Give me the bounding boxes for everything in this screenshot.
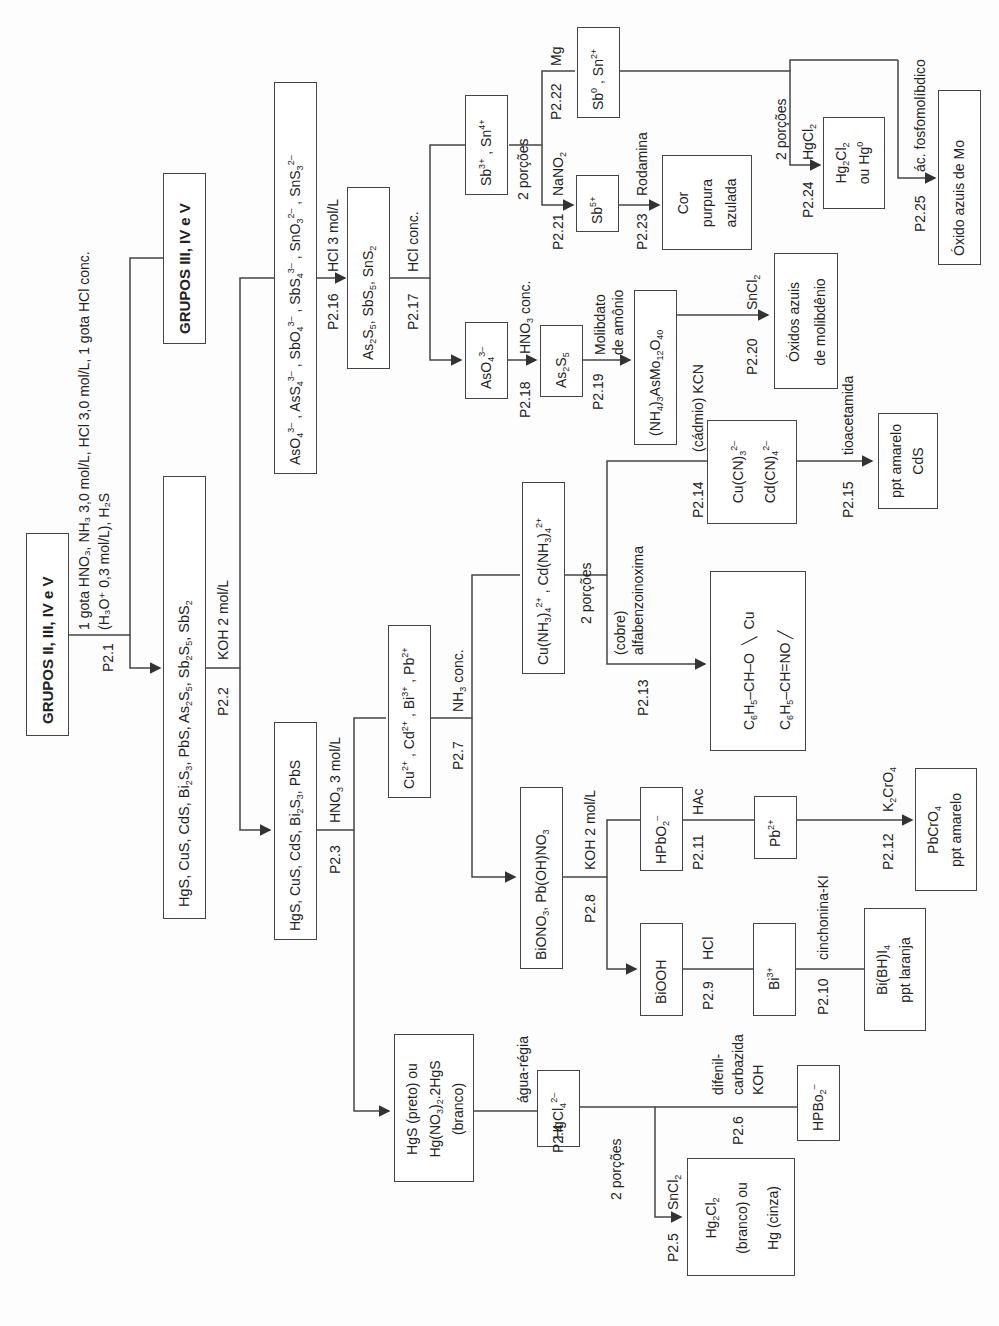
line-p2-8 bbox=[562, 820, 640, 877]
step-p2-4-reagent: água-régia bbox=[515, 1036, 532, 1103]
step-p2-1-reagent-line1: 1 gota HNO₃, NH₃ 3,0 mol/L, HCl 3,0 mol/… bbox=[76, 251, 93, 630]
node-cu-complex-label: C6H5–CH–O ╲ CuC6H5–CH=NO ╱ bbox=[731, 612, 803, 730]
node-as2s5: As2S5 bbox=[540, 325, 583, 397]
node-thioanions: AsO43– , AsS43– , SbO43– , SbS43– , SnO3… bbox=[274, 82, 317, 474]
step-p2-4-id: P2.4 bbox=[550, 1124, 567, 1153]
arrow-p2-8 bbox=[607, 877, 636, 969]
step-p2-22-reagent: Mg bbox=[548, 47, 565, 66]
step-p2-2-id: P2.2 bbox=[215, 687, 232, 716]
node-mo-oxide-label: Óxido azuis de Mo bbox=[951, 140, 968, 256]
node-sb-sn-label: Sb3+ , Sn4+ bbox=[478, 120, 495, 186]
step-p2-13-reagent-line2: alfabenzoinoxima bbox=[630, 546, 647, 655]
node-mo-blue: Óxidos azuisde molibdênio bbox=[774, 253, 838, 389]
step-p2-14-id: P2.14 bbox=[690, 481, 707, 518]
node-cu-cd-ammine: Cu(NH3)42+ , Cd(NH3)42+ bbox=[522, 482, 565, 674]
node-hpbo2-hg: HPBo2– bbox=[797, 1065, 840, 1141]
flowchart-canvas: GRUPOS II, III, IV e V GRUPOS III, IV e … bbox=[0, 0, 999, 1326]
step-p2-1-id: P2.1 bbox=[100, 643, 117, 672]
step-p2-25-reagent: ác. fosfomolíbdico bbox=[912, 59, 929, 172]
node-sulfides-all: HgS, CuS, CdS, Bi2S3, PbS, As2S5, Sb2S5,… bbox=[163, 476, 206, 919]
step-p2-5-id: P2.5 bbox=[665, 1233, 682, 1262]
node-groups-rest-label: GRUPOS III, IV e V bbox=[176, 203, 193, 334]
step-p2-13-reagent-line1: (cobre) bbox=[612, 611, 629, 655]
step-p2-2-reagent: KOH 2 mol/L bbox=[215, 580, 232, 660]
step-p2-16-id: P2.16 bbox=[325, 293, 342, 330]
node-sb0-sn2: Sb0 , Sn2+ bbox=[577, 27, 620, 118]
arrow-p2-1 bbox=[130, 635, 160, 668]
arrow-p2-2 bbox=[240, 668, 270, 830]
node-purple: Corpurpuraazulada bbox=[662, 155, 752, 250]
step-p2-17-id: P2.17 bbox=[405, 293, 422, 330]
node-arsenomolybdate: (NH4)3AsMo12O40 bbox=[634, 290, 677, 445]
step-p2-23-reagent: Rodamina bbox=[634, 132, 651, 196]
step-p2-15-id: P2.15 bbox=[840, 481, 857, 518]
node-bi-bh-i4-label: Bi(BH)I4ppt laranja bbox=[871, 917, 917, 1023]
node-cds: ppt amareloCdS bbox=[878, 413, 938, 509]
step-p2-23-id: P2.23 bbox=[634, 213, 651, 250]
node-purple-label: Corpurpuraazulada bbox=[671, 160, 743, 246]
split-label-sn: 2 porções bbox=[773, 99, 790, 160]
step-p2-7-reagent: NH3 conc. bbox=[450, 649, 467, 712]
step-p2-16-reagent: HCl 3 mol/L bbox=[325, 199, 342, 272]
split-label-cu-cd: 2 porções bbox=[578, 563, 595, 624]
step-p2-11-id: P2.11 bbox=[690, 834, 707, 870]
node-cu-complex: C6H5–CH–O ╲ CuC6H5–CH=NO ╱ bbox=[710, 571, 806, 751]
node-bi-pb-hydroxynitrates: BiONO3, Pb(OH)NO3 bbox=[520, 787, 563, 969]
node-hgs-residue: HgS (preto) ouHg(NO3)2.2HgS(branco) bbox=[394, 1034, 474, 1182]
step-p2-14-reagent: (cádmio) KCN bbox=[690, 364, 707, 452]
node-groups-rest: GRUPOS III, IV e V bbox=[163, 173, 206, 344]
step-p2-6-id: P2.6 bbox=[730, 1116, 747, 1145]
node-biooh: BiOOH bbox=[640, 923, 683, 1016]
node-biooh-label: BiOOH bbox=[653, 960, 670, 1004]
node-bi3-label: Bi3+ bbox=[766, 967, 783, 990]
node-start: GRUPOS II, III, IV e V bbox=[26, 533, 69, 736]
node-aso4: AsO43– bbox=[465, 322, 508, 399]
node-sulfides-group2a-label: HgS, CuS, CdS, Bi2S3, PbS bbox=[287, 760, 304, 931]
split-label-hg: 2 porções bbox=[608, 1139, 625, 1200]
line-p2-17 bbox=[390, 145, 465, 278]
split-label-sb-sn: 2 porções bbox=[515, 139, 532, 200]
node-hg2cl2: Hg2Cl2(branco) ouHg (cinza) bbox=[687, 1158, 795, 1276]
node-hpbo2-hg-label: HPBo2– bbox=[810, 1084, 827, 1131]
node-sulfides-all-label: HgS, CuS, CdS, Bi2S3, PbS, As2S5, Sb2S5,… bbox=[176, 600, 193, 907]
step-p2-10-id: P2.10 bbox=[815, 978, 832, 1015]
step-p2-20-id: P2.20 bbox=[744, 338, 761, 375]
node-sb5-label: Sb5+ bbox=[589, 197, 606, 224]
step-p2-18-reagent: HNO3 conc. bbox=[517, 281, 534, 355]
step-p2-9-id: P2.9 bbox=[700, 981, 717, 1010]
node-pb2-label: Pb2+ bbox=[767, 820, 784, 847]
node-cyanides-label: Cu(CN)32–Cd(CN)42– bbox=[722, 427, 786, 517]
node-mo-oxide: Óxido azuis de Mo bbox=[938, 90, 981, 265]
node-sulfides-group2a: HgS, CuS, CdS, Bi2S3, PbS bbox=[274, 722, 317, 940]
arrow-p2-3 bbox=[354, 830, 389, 1111]
step-p2-20-reagent: SnCl2 bbox=[744, 275, 761, 310]
node-bi-pb-label: BiONO3, Pb(OH)NO3 bbox=[533, 829, 550, 960]
step-p2-17-reagent: HCl conc. bbox=[405, 211, 422, 272]
step-p2-13-id: P2.13 bbox=[635, 679, 652, 716]
step-p2-22-id: P2.22 bbox=[548, 83, 565, 120]
node-cations-label: Cu2+ , Cd2+ , Bi3+ , Pb2+ bbox=[401, 648, 418, 789]
step-p2-3-reagent: HNO3 3 mol/L bbox=[327, 737, 344, 823]
node-hpbo2-label: HPbO2– bbox=[653, 816, 670, 864]
node-hg2cl2-hg0: Hg2Cl2ou Hg0 bbox=[823, 117, 885, 209]
line-p2-7 bbox=[431, 575, 520, 718]
node-sulfides-as-sb-sn: As2S5, SbS5, SnS2 bbox=[347, 187, 390, 369]
node-mo-blue-label: Óxidos azuisde molibdênio bbox=[781, 260, 833, 384]
step-p2-1-reagent-line2: (H₃O⁺ 0,3 mol/L), H₂S bbox=[96, 493, 113, 630]
node-start-label: GRUPOS II, III, IV e V bbox=[39, 576, 56, 724]
step-p2-15-reagent: tioacetamida bbox=[840, 376, 857, 455]
step-p2-24-reagent: HgCl2 bbox=[800, 124, 817, 160]
step-p2-3-id: P2.3 bbox=[327, 845, 344, 874]
step-p2-19-id: P2.19 bbox=[590, 373, 607, 410]
node-cations-cu-cd-bi-pb: Cu2+ , Cd2+ , Bi3+ , Pb2+ bbox=[388, 625, 431, 798]
node-cds-label: ppt amareloCdS bbox=[885, 416, 929, 506]
node-hgs-residue-label: HgS (preto) ouHg(NO3)2.2HgS(branco) bbox=[401, 1041, 470, 1177]
node-thioanions-label: AsO43– , AsS43– , SbO43– , SbS43– , SnO3… bbox=[287, 155, 304, 465]
step-p2-10-reagent: cinchonina-KI bbox=[815, 875, 832, 960]
step-p2-18-id: P2.18 bbox=[517, 381, 534, 418]
step-p2-21-reagent: NaNO2 bbox=[550, 152, 567, 196]
node-pbcro4: PbCrO4ppt amarelo bbox=[915, 768, 977, 891]
node-sb0-sn2-label: Sb0 , Sn2+ bbox=[590, 49, 607, 110]
node-bi-bh-i4: Bi(BH)I4ppt laranja bbox=[864, 908, 926, 1031]
step-p2-19-reagent-line1: Molibdato bbox=[592, 294, 609, 355]
